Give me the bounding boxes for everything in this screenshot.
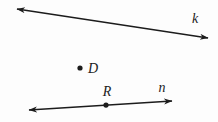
line-k — [17, 9, 208, 38]
geometry-figure: knDR — [0, 0, 218, 122]
lines-layer — [17, 9, 208, 110]
label-line-k: k — [192, 11, 199, 26]
geometry-diagram: knDR — [0, 0, 218, 122]
point-D — [77, 65, 82, 70]
label-line-n: n — [159, 80, 166, 95]
labels-layer: knDR — [87, 11, 199, 99]
point-R — [103, 103, 108, 108]
label-point-D: D — [87, 61, 98, 76]
label-point-R: R — [102, 84, 112, 99]
line-n — [29, 101, 172, 110]
